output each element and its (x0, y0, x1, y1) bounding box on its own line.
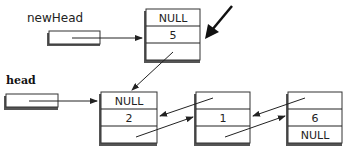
node-5-prev: NULL (159, 12, 188, 25)
node-6-value: 6 (312, 112, 319, 125)
node-6-next: NULL (301, 129, 330, 142)
node-2-prev: NULL (115, 95, 144, 108)
node-5: NULL 5 (144, 9, 200, 63)
node-2: NULL 2 (99, 92, 157, 146)
node-1: 1 (194, 92, 250, 146)
newhead-label: newHead (27, 11, 83, 25)
node-1-value: 1 (220, 112, 227, 125)
node-5-value: 5 (170, 29, 177, 42)
head-pointer: head (4, 74, 97, 110)
node-6: 6 NULL (286, 92, 342, 146)
highlight-arrow-icon (205, 6, 232, 39)
linked-list-diagram: newHead NULL 5 head NULL 2 (0, 0, 345, 150)
head-label: head (6, 74, 36, 87)
newhead-pointer: newHead (27, 11, 142, 46)
node-2-value: 2 (126, 112, 133, 125)
